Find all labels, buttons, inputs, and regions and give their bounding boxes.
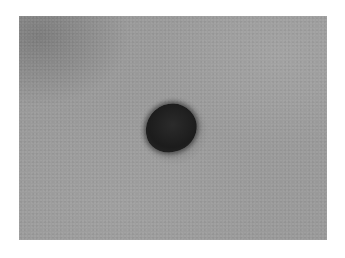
photo-background <box>19 16 327 240</box>
